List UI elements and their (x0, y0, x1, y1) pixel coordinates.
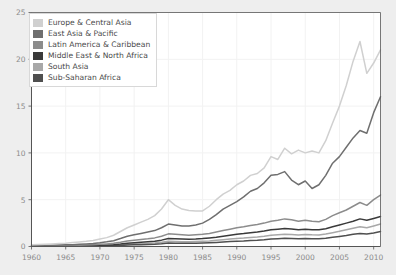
legend-item: Middle East & North Africa (33, 50, 150, 61)
chart-legend: Europe & Central AsiaEast Asia & Pacific… (29, 13, 157, 87)
x-tick-label: 1975 (125, 253, 144, 262)
legend-item: Sub-Saharan Africa (33, 72, 150, 83)
y-tick-label: 5 (21, 196, 26, 205)
legend-swatch-icon (33, 74, 43, 82)
y-tick-label: 10 (16, 149, 26, 158)
legend-swatch-icon (33, 63, 43, 71)
legend-item-label: Middle East & North Africa (48, 50, 148, 61)
y-tick-label: 25 (16, 8, 26, 17)
legend-swatch-icon (33, 30, 43, 38)
legend-item-label: Latin America & Caribbean (48, 39, 150, 50)
legend-item: East Asia & Pacific (33, 28, 150, 39)
x-tick-label: 1970 (90, 253, 109, 262)
legend-item-label: Europe & Central Asia (48, 17, 131, 28)
x-tick-label: 2000 (296, 253, 315, 262)
legend-swatch-icon (33, 19, 43, 27)
x-tick-label: 2010 (364, 253, 383, 262)
legend-swatch-icon (33, 41, 43, 49)
chart-figure: 1960196519701975198019851990199520002005… (0, 0, 396, 275)
legend-item: Europe & Central Asia (33, 17, 150, 28)
x-tick-label: 1995 (261, 253, 280, 262)
legend-item-label: East Asia & Pacific (48, 28, 118, 39)
x-tick-label: 2005 (330, 253, 349, 262)
x-tick-label: 1965 (56, 253, 75, 262)
legend-swatch-icon (33, 52, 43, 60)
y-tick-label: 0 (21, 242, 26, 251)
y-tick-label: 15 (16, 102, 26, 111)
x-tick-label: 1985 (193, 253, 212, 262)
x-tick-label: 1980 (159, 253, 178, 262)
legend-item: South Asia (33, 61, 150, 72)
y-tick-label: 20 (16, 55, 26, 64)
legend-item-label: South Asia (48, 61, 88, 72)
legend-item-label: Sub-Saharan Africa (48, 72, 121, 83)
x-tick-label: 1990 (227, 253, 246, 262)
x-tick-label: 1960 (22, 253, 41, 262)
legend-item: Latin America & Caribbean (33, 39, 150, 50)
